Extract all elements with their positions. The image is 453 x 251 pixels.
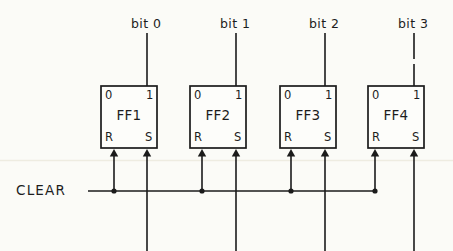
clear-junction-dot-2 — [288, 188, 293, 193]
flipflop-name-ff4: FF4 — [383, 109, 408, 123]
set-arrowhead-2 — [321, 149, 329, 157]
clear-bus-label: CLEAR — [16, 184, 66, 198]
flipflop-name-ff3: FF3 — [295, 109, 320, 123]
port-label-s-ff4: S — [412, 132, 419, 144]
port-label-1-ff4: 1 — [413, 90, 420, 102]
port-label-s-ff1: S — [145, 132, 152, 144]
bit-label-1: bit 1 — [220, 18, 250, 31]
set-arrowhead-0 — [143, 149, 151, 157]
reset-arrowhead-0 — [110, 149, 118, 157]
bit-label-0: bit 0 — [131, 18, 161, 31]
flipflop-name-ff1: FF1 — [116, 109, 141, 123]
port-label-r-ff3: R — [284, 132, 292, 144]
flipflop-register-diagram: 01RSFF1bit 001RSFF2bit 101RSFF3bit 201RS… — [0, 0, 453, 251]
port-label-0-ff1: 0 — [105, 90, 112, 102]
port-label-s-ff2: S — [234, 132, 241, 144]
port-label-1-ff2: 1 — [235, 90, 242, 102]
clear-junction-dot-0 — [111, 188, 116, 193]
port-label-r-ff4: R — [372, 132, 380, 144]
port-label-r-ff2: R — [194, 132, 202, 144]
port-label-1-ff3: 1 — [325, 90, 332, 102]
set-arrowhead-1 — [232, 149, 240, 157]
set-arrowhead-3 — [410, 149, 418, 157]
bit-label-3: bit 3 — [398, 18, 428, 31]
port-label-0-ff4: 0 — [372, 90, 379, 102]
port-label-1-ff1: 1 — [146, 90, 153, 102]
port-label-s-ff3: S — [324, 132, 331, 144]
port-label-0-ff3: 0 — [284, 90, 291, 102]
port-label-0-ff2: 0 — [194, 90, 201, 102]
reset-arrowhead-2 — [287, 149, 295, 157]
reset-arrowhead-3 — [371, 149, 379, 157]
diagram-canvas — [0, 0, 453, 251]
reset-arrowhead-1 — [198, 149, 206, 157]
port-label-r-ff1: R — [105, 132, 113, 144]
flipflop-name-ff2: FF2 — [205, 109, 230, 123]
clear-junction-dot-1 — [199, 188, 204, 193]
clear-junction-dot-3 — [372, 188, 377, 193]
bit-label-2: bit 2 — [309, 18, 339, 31]
